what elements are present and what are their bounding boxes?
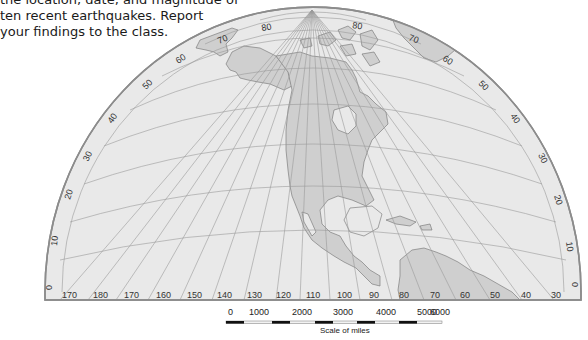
svg-text:80: 80 [261, 21, 273, 33]
svg-text:0: 0 [44, 285, 54, 290]
scale-label-4000: 4000 [376, 307, 396, 317]
svg-text:170: 170 [124, 290, 139, 300]
svg-text:180: 180 [93, 290, 108, 300]
scale-label-0: 0 [228, 307, 233, 317]
svg-text:30: 30 [551, 290, 561, 300]
svg-text:60: 60 [460, 290, 470, 300]
svg-text:140: 140 [217, 290, 232, 300]
svg-text:100: 100 [337, 290, 352, 300]
svg-text:170: 170 [62, 290, 77, 300]
svg-text:80: 80 [399, 290, 409, 300]
scale-label-1000: 1000 [249, 307, 269, 317]
svg-text:70: 70 [430, 290, 440, 300]
svg-text:120: 120 [276, 290, 291, 300]
western-hemisphere-map: 0 10 20 30 40 50 60 70 80 80 70 60 50 40… [0, 0, 588, 340]
scale-bar [226, 321, 442, 324]
scale-title: Scale of miles [320, 326, 370, 335]
svg-text:130: 130 [247, 290, 262, 300]
scale-label-6000: 6000 [430, 307, 450, 317]
svg-text:110: 110 [306, 290, 320, 300]
svg-text:10: 10 [564, 241, 575, 252]
svg-text:160: 160 [156, 290, 171, 300]
svg-text:50: 50 [490, 290, 500, 300]
svg-text:40: 40 [521, 290, 531, 300]
scale-label-3000: 3000 [333, 307, 353, 317]
svg-text:10: 10 [49, 235, 60, 246]
svg-text:150: 150 [187, 290, 202, 300]
svg-text:0: 0 [570, 282, 580, 287]
svg-text:90: 90 [369, 290, 379, 300]
svg-text:80: 80 [352, 20, 363, 31]
scale-label-2000: 2000 [292, 307, 312, 317]
